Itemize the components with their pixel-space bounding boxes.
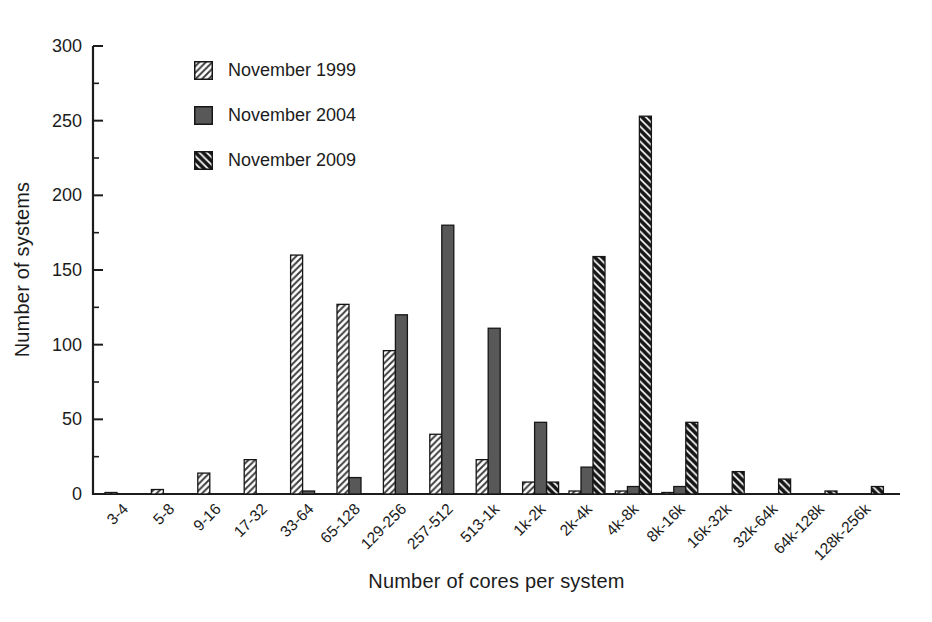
- legend-item-2004: November 2004: [194, 105, 356, 126]
- svg-text:150: 150: [52, 260, 82, 280]
- legend-item-2009: November 2009: [194, 150, 356, 171]
- legend-label-1999: November 1999: [228, 60, 356, 81]
- y-axis-title: Number of systems: [11, 170, 34, 370]
- bar-chart-canvas: 0501001502002503003-45-89-1617-3233-6465…: [0, 0, 932, 622]
- svg-text:200: 200: [52, 185, 82, 205]
- chart-legend: November 1999 November 2004 November 200…: [194, 60, 356, 171]
- chart-bars: [105, 116, 883, 494]
- x-tick-label: 3-4: [103, 500, 131, 528]
- x-tick-label: 8k-16k: [643, 500, 688, 545]
- svg-text:0: 0: [72, 484, 82, 504]
- svg-text:250: 250: [52, 111, 82, 131]
- chart-tick-labels: 0501001502002503003-45-89-1617-3233-6465…: [52, 36, 874, 563]
- x-tick-label: 33-64: [277, 500, 317, 540]
- x-tick-label: 4k-8k: [603, 500, 642, 539]
- solid-gray-swatch-icon: [194, 106, 213, 125]
- svg-text:300: 300: [52, 36, 82, 56]
- svg-text:100: 100: [52, 335, 82, 355]
- hatch-forward-swatch-icon: [194, 61, 213, 80]
- x-axis-title: Number of cores per system: [93, 570, 900, 593]
- legend-item-1999: November 1999: [194, 60, 356, 81]
- legend-label-2004: November 2004: [228, 105, 356, 126]
- legend-label-2009: November 2009: [228, 150, 356, 171]
- svg-text:50: 50: [62, 409, 82, 429]
- x-tick-label: 2k-4k: [556, 500, 595, 539]
- x-tick-label: 16k-32k: [683, 500, 734, 551]
- x-tick-label: 9-16: [190, 500, 224, 534]
- top500-cores-histogram-figure: 0501001502002503003-45-89-1617-3233-6465…: [0, 0, 932, 622]
- x-tick-label: 257-512: [404, 500, 456, 552]
- x-tick-label: 65-128: [317, 500, 363, 546]
- hatch-back-swatch-icon: [194, 151, 213, 170]
- x-tick-label: 1k-2k: [510, 500, 549, 539]
- x-tick-label: 17-32: [230, 500, 270, 540]
- x-tick-label: 513-1k: [457, 500, 503, 546]
- x-tick-label: 129-256: [357, 500, 409, 552]
- x-tick-label: 5-8: [150, 500, 178, 528]
